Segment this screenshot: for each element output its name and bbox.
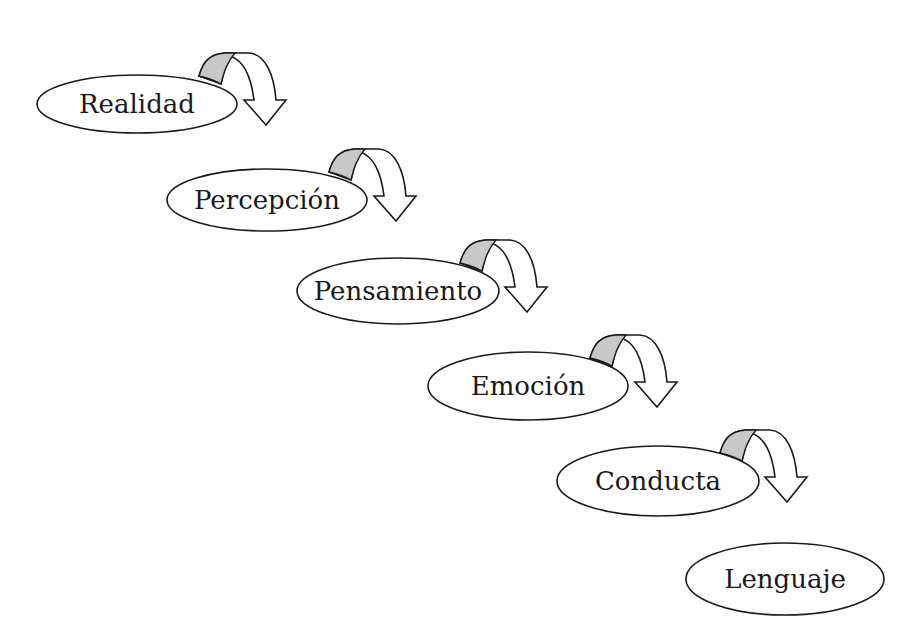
node-label: Realidad — [79, 89, 195, 119]
node-percepcion: Percepción — [167, 169, 367, 231]
arrow-band — [329, 149, 365, 180]
arrow-band — [199, 53, 235, 84]
node-conducta: Conducta — [557, 446, 759, 516]
node-realidad: Realidad — [37, 75, 237, 133]
node-pensamiento: Pensamiento — [297, 258, 499, 324]
arrows-layer — [199, 53, 807, 502]
node-label: Emoción — [471, 371, 586, 401]
sequence-diagram: RealidadPercepciónPensamientoEmociónCond… — [0, 0, 920, 635]
node-label: Percepción — [194, 185, 340, 215]
node-label: Conducta — [595, 466, 721, 496]
node-label: Lenguaje — [724, 564, 846, 594]
node-emocion: Emoción — [428, 352, 628, 420]
node-label: Pensamiento — [314, 276, 483, 306]
node-lenguaje: Lenguaje — [686, 543, 884, 615]
nodes-layer: RealidadPercepciónPensamientoEmociónCond… — [37, 75, 884, 615]
